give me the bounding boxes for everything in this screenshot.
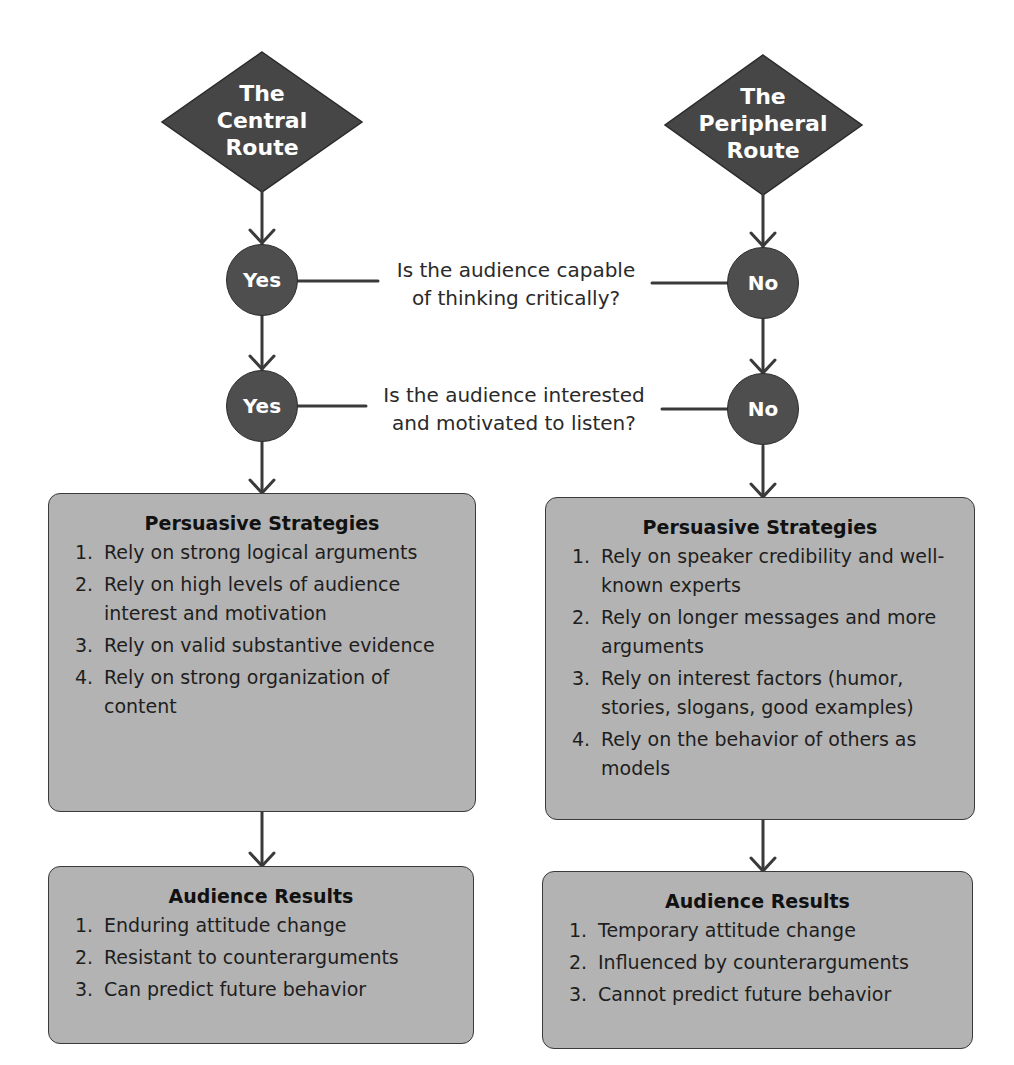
peripheral-route-title: The Peripheral Route — [683, 83, 843, 164]
peripheral-strategies-box: Persuasive Strategies 1.Rely on speaker … — [545, 497, 975, 820]
item-text: Enduring attitude change — [104, 911, 459, 940]
item-number: 2. — [75, 943, 104, 972]
question-2: Is the audience interested and motivated… — [362, 381, 666, 437]
item-number: 3. — [75, 631, 104, 660]
item-number: 3. — [75, 975, 104, 1004]
item-number: 1. — [75, 538, 104, 567]
item-number: 3. — [569, 980, 598, 1009]
central-strategies-box: Persuasive Strategies 1.Rely on strong l… — [48, 493, 476, 812]
question-1: Is the audience capable of thinking crit… — [376, 256, 656, 312]
list-item: 3.Rely on interest factors (humor, stori… — [572, 664, 960, 722]
item-number: 2. — [75, 570, 104, 628]
peripheral-answer-2-node: No — [727, 373, 799, 445]
question-line: of thinking critically? — [376, 284, 656, 312]
central-results-box: Audience Results 1.Enduring attitude cha… — [48, 866, 474, 1044]
item-number: 1. — [75, 911, 104, 940]
list-item: 3.Cannot predict future behavior — [569, 980, 958, 1009]
results-list: 1.Temporary attitude change 2.Influenced… — [543, 916, 972, 1009]
item-number: 1. — [572, 542, 601, 600]
item-text: Can predict future behavior — [104, 975, 459, 1004]
title-line: Route — [683, 137, 843, 164]
box-title: Persuasive Strategies — [49, 512, 475, 534]
answer-label: No — [748, 397, 778, 421]
central-answer-1-node: Yes — [226, 244, 298, 316]
list-item: 2.Rely on longer messages and more argum… — [572, 603, 960, 661]
list-item: 4.Rely on the behavior of others as mode… — [572, 725, 960, 783]
central-answer-2-node: Yes — [226, 370, 298, 442]
peripheral-results-box: Audience Results 1.Temporary attitude ch… — [542, 871, 973, 1049]
strategies-list: 1.Rely on strong logical arguments 2.Rel… — [49, 538, 475, 721]
item-text: Rely on the behavior of others as models — [601, 725, 960, 783]
item-text: Temporary attitude change — [598, 916, 958, 945]
item-number: 2. — [569, 948, 598, 977]
box-title: Audience Results — [49, 885, 473, 907]
item-text: Influenced by counterarguments — [598, 948, 958, 977]
list-item: 2.Influenced by counterarguments — [569, 948, 958, 977]
item-text: Rely on speaker credibility and well-kno… — [601, 542, 960, 600]
item-number: 4. — [75, 663, 104, 721]
box-title: Audience Results — [543, 890, 972, 912]
item-text: Rely on strong logical arguments — [104, 538, 461, 567]
item-text: Rely on strong organization of content — [104, 663, 461, 721]
box-title: Persuasive Strategies — [546, 516, 974, 538]
list-item: 1.Temporary attitude change — [569, 916, 958, 945]
title-line: The — [683, 83, 843, 110]
answer-label: Yes — [243, 268, 281, 292]
item-text: Resistant to counterarguments — [104, 943, 459, 972]
item-text: Cannot predict future behavior — [598, 980, 958, 1009]
list-item: 3.Can predict future behavior — [75, 975, 459, 1004]
list-item: 3.Rely on valid substantive evidence — [75, 631, 461, 660]
item-text: Rely on valid substantive evidence — [104, 631, 461, 660]
item-text: Rely on interest factors (humor, stories… — [601, 664, 960, 722]
list-item: 4.Rely on strong organization of content — [75, 663, 461, 721]
title-line: The — [182, 80, 342, 107]
central-route-title: The Central Route — [182, 80, 342, 161]
item-number: 4. — [572, 725, 601, 783]
results-list: 1.Enduring attitude change 2.Resistant t… — [49, 911, 473, 1004]
list-item: 1.Rely on strong logical arguments — [75, 538, 461, 567]
list-item: 1.Rely on speaker credibility and well-k… — [572, 542, 960, 600]
strategies-list: 1.Rely on speaker credibility and well-k… — [546, 542, 974, 783]
title-line: Peripheral — [683, 110, 843, 137]
list-item: 2.Rely on high levels of audience intere… — [75, 570, 461, 628]
title-line: Central — [182, 107, 342, 134]
question-line: and motivated to listen? — [362, 409, 666, 437]
item-number: 1. — [569, 916, 598, 945]
item-number: 2. — [572, 603, 601, 661]
title-line: Route — [182, 134, 342, 161]
peripheral-answer-1-node: No — [727, 247, 799, 319]
answer-label: No — [748, 271, 778, 295]
question-line: Is the audience interested — [362, 381, 666, 409]
item-text: Rely on high levels of audience interest… — [104, 570, 461, 628]
question-line: Is the audience capable — [376, 256, 656, 284]
item-number: 3. — [572, 664, 601, 722]
item-text: Rely on longer messages and more argumen… — [601, 603, 960, 661]
answer-label: Yes — [243, 394, 281, 418]
list-item: 2.Resistant to counterarguments — [75, 943, 459, 972]
list-item: 1.Enduring attitude change — [75, 911, 459, 940]
